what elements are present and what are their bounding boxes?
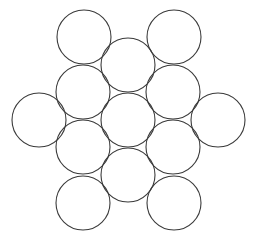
lower-left-circle <box>56 120 110 174</box>
top-right-circle <box>147 10 201 64</box>
bottom-right-circle <box>147 176 201 230</box>
bottom-left-circle <box>56 176 110 230</box>
figure-root <box>0 0 256 245</box>
circle-packing-diagram <box>0 0 256 245</box>
lower-right-circle <box>146 120 200 174</box>
lower-center-circle <box>101 148 155 202</box>
upper-right-circle <box>146 65 200 119</box>
